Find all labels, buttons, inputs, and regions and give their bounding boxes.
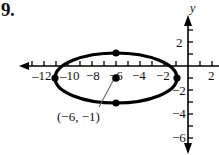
y-tick-label-2: 2: [176, 36, 183, 49]
point-left-vertex: [51, 74, 58, 81]
y-tick-label--4: −4: [172, 107, 186, 120]
point-top-covertex: [112, 49, 119, 56]
point-right-vertex: [173, 74, 180, 81]
x-tick-label--6: −6: [109, 69, 123, 82]
y-tick-label--6: −6: [172, 131, 186, 144]
point-bottom-covertex: [112, 99, 119, 106]
y-axis-up-arrow-icon: [184, 15, 192, 26]
center-point-annotation-label: (−6, −1): [57, 110, 100, 123]
x-tick-label--8: −8: [86, 69, 100, 82]
x-tick-label--2: −2: [156, 69, 170, 82]
y-axis-label: y: [190, 2, 195, 14]
x-axis-left-arrow-icon: [19, 62, 29, 70]
x-tick-label--12: –12: [32, 69, 52, 82]
y-tick-label--2: −2: [172, 84, 186, 97]
x-tick-label--4: −4: [132, 69, 146, 82]
x-tick-label--10: –10: [60, 69, 80, 82]
x-tick-label-2: 2: [208, 69, 215, 82]
